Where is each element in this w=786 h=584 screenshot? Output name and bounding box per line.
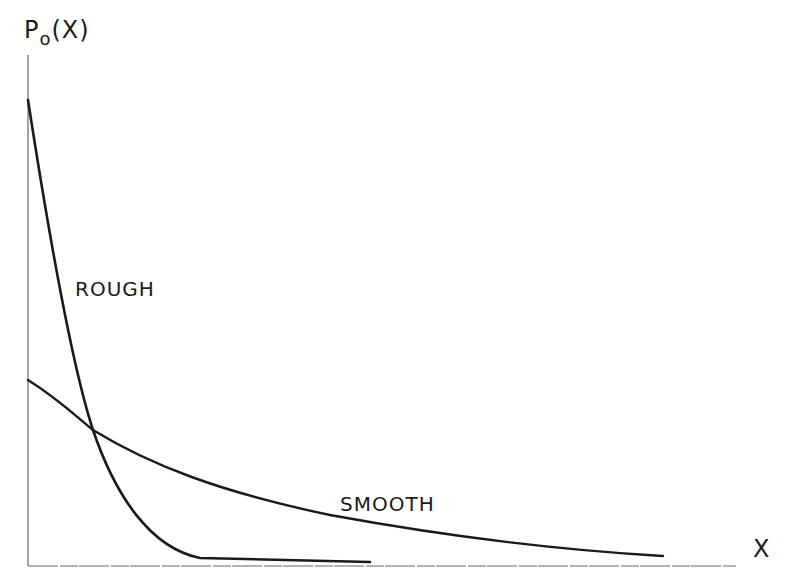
rough-label: ROUGH <box>75 277 155 301</box>
y-axis-label: Po(X) <box>24 16 90 49</box>
rough-curve <box>28 100 370 562</box>
chart: Po(X) X ROUGH SMOOTH <box>0 0 786 584</box>
smooth-label: SMOOTH <box>340 492 435 516</box>
x-axis-label: X <box>753 535 770 563</box>
smooth-curve <box>28 380 663 556</box>
